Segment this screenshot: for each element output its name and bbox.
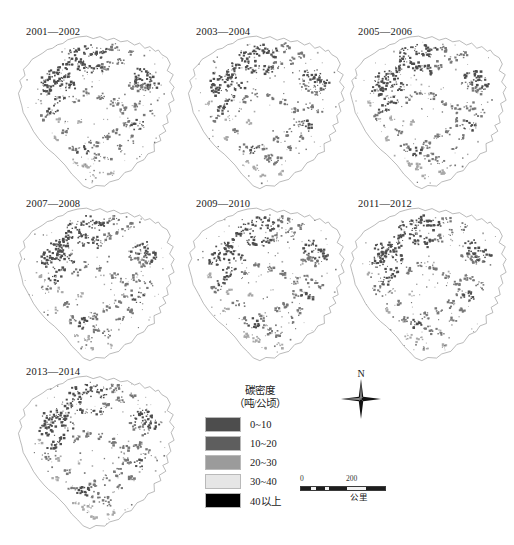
north-label: N [333, 368, 389, 379]
legend-item: 30~40 [205, 472, 315, 491]
legend-label: 20~30 [250, 457, 277, 468]
map-panel: 2001—2002 [8, 18, 179, 193]
compass-rose: N [333, 368, 389, 420]
scale-segment [316, 487, 324, 490]
legend: 碳密度 （吨/公顷） 0~1010~2020~3030~4040以上 [205, 384, 315, 510]
legend-title: 碳密度 [205, 384, 315, 397]
legend-label: 30~40 [250, 476, 277, 487]
carbon-density-map-figure: 2001—2002 2003—2004 2005—2006 2007—2008 … [0, 0, 514, 545]
province-map [340, 204, 511, 365]
scale-tick-min: 0 [300, 474, 304, 483]
legend-label: 0~10 [250, 419, 271, 430]
province-map [8, 204, 179, 365]
map-panel: 2005—2006 [340, 18, 511, 193]
legend-swatch [205, 474, 241, 489]
scale-bar: 0 200 公里 [300, 474, 405, 500]
map-panel: 2007—2008 [8, 190, 179, 365]
scale-segment [301, 487, 311, 490]
legend-swatch [205, 417, 241, 432]
legend-item: 0~10 [205, 415, 315, 434]
legend-title-units: （吨/公顷） [205, 397, 315, 410]
legend-swatch [205, 436, 241, 451]
legend-label: 10~20 [250, 438, 277, 449]
scale-bar-unit: 公里 [350, 490, 368, 502]
scale-tick-max: 200 [346, 474, 357, 483]
scale-bar-ticks: 0 200 [300, 474, 405, 485]
legend-swatch [205, 493, 241, 508]
legend-label: 40以上 [250, 493, 281, 508]
province-map [178, 204, 349, 365]
map-panel: 2013—2014 [8, 358, 179, 533]
legend-item: 10~20 [205, 434, 315, 453]
scale-segment [366, 487, 385, 490]
map-panel: 2011—2012 [340, 190, 511, 365]
province-map [8, 372, 179, 533]
province-map [178, 32, 349, 193]
compass-star-icon [341, 379, 381, 419]
province-map [340, 32, 511, 193]
legend-item: 40以上 [205, 491, 315, 510]
map-panel: 2009—2010 [178, 190, 349, 365]
scale-bar-segments [300, 486, 386, 491]
legend-items: 0~1010~2020~3030~4040以上 [205, 415, 315, 510]
legend-item: 20~30 [205, 453, 315, 472]
province-map [8, 32, 179, 193]
scale-segment [329, 487, 347, 490]
legend-swatch [205, 455, 241, 470]
map-panel: 2003—2004 [178, 18, 349, 193]
